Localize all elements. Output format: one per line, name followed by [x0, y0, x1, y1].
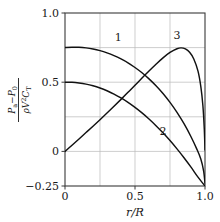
denominator-c-sub: T	[25, 86, 33, 91]
x-axis-title-text: r/R	[126, 205, 144, 219]
x-axis-title: r/R	[126, 205, 144, 219]
numerator-sub-0: 0	[11, 86, 19, 90]
y-axis-tick-label: 0.5	[42, 76, 60, 89]
chart-svg: 1.00.50−0.2500.51.0 123 r/R Pa−P0 ρV2CT	[0, 0, 220, 222]
curve-label-3: 3	[174, 29, 181, 42]
x-axis-tick-label: 0	[62, 190, 69, 203]
chart-figure: 1.00.50−0.2500.51.0 123 r/R Pa−P0 ρV2CT	[0, 0, 220, 222]
numerator-minus: −	[7, 96, 17, 104]
x-axis-tick-label: 1.0	[196, 190, 214, 203]
y-axis-tick-label: 1.0	[42, 7, 60, 20]
curve-label-1: 1	[115, 31, 122, 44]
x-axis-tick-label: 0.5	[126, 190, 144, 203]
curve-label-2: 2	[160, 125, 167, 138]
y-axis-tick-label: 0	[52, 145, 59, 158]
y-axis-tick-label: −0.25	[25, 180, 59, 193]
